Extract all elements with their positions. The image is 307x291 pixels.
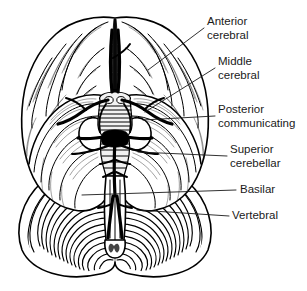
artery-anterior-cerebral-left bbox=[111, 30, 113, 92]
brain-anatomy-figure: Anterior cerebral Middle cerebral Poster… bbox=[0, 0, 307, 291]
label-middle-cerebral-line1: Middle bbox=[218, 55, 252, 67]
label-posterior-communicating-line1: Posterior bbox=[218, 103, 264, 115]
label-posterior-communicating-line2: communicating bbox=[218, 117, 295, 129]
label-superior-cerebellar-line1: Superior bbox=[230, 143, 274, 155]
label-vertebral: Vertebral bbox=[232, 209, 278, 221]
label-anterior-cerebral-line2: cerebral bbox=[207, 29, 249, 41]
label-middle-cerebral-line2: cerebral bbox=[218, 69, 260, 81]
label-superior-cerebellar-line2: cerebellar bbox=[230, 157, 281, 169]
artery-anterior-cerebral-right bbox=[118, 30, 120, 92]
artery-basilar-bifurcation bbox=[101, 130, 129, 148]
label-basilar: Basilar bbox=[240, 183, 275, 195]
brain-inferior-view-illustration: Anterior cerebral Middle cerebral Poster… bbox=[0, 0, 307, 291]
label-anterior-cerebral-line1: Anterior bbox=[207, 15, 247, 27]
